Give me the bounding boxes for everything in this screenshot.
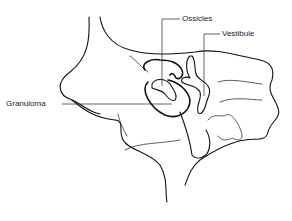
vestibule-label: Vestibule — [222, 30, 254, 38]
ossicles-label: Ossicles — [182, 15, 212, 23]
vestibule-leader — [204, 34, 220, 96]
outer-contour-left-lower — [72, 100, 167, 202]
cochlea-shape — [208, 115, 242, 140]
ear-anatomy-diagram: Ossicles Vestibule Granuloma — [0, 0, 292, 221]
inner-duct — [180, 112, 210, 158]
granuloma-label: Granuloma — [6, 100, 46, 108]
canal-line-2 — [220, 99, 262, 102]
canal-line-1 — [218, 80, 262, 84]
ossicles-shape — [152, 80, 176, 101]
ossicles-leader — [162, 19, 180, 86]
outer-contour-left — [60, 17, 100, 114]
vestibule-shape — [182, 56, 210, 114]
middle-ear-cavity — [144, 60, 183, 79]
small-inner-line — [118, 114, 127, 136]
